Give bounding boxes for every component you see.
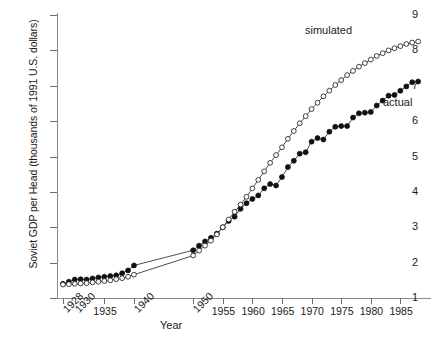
data-point-actual	[362, 110, 367, 115]
data-point-simulated	[327, 88, 332, 93]
data-point-actual	[410, 80, 415, 85]
x-tick	[223, 298, 224, 304]
data-point-simulated	[102, 279, 107, 284]
data-point-simulated	[238, 202, 243, 207]
y-tick	[50, 121, 57, 122]
data-point-simulated	[191, 253, 196, 258]
x-tick-label: 1935	[93, 306, 116, 317]
y-axis-title: Soviet GDP per Head (thousands of 1991 U…	[27, 0, 39, 294]
data-point-simulated	[114, 277, 119, 282]
data-point-actual	[315, 136, 320, 141]
data-point-actual	[345, 124, 350, 129]
data-point-actual	[416, 79, 421, 84]
data-point-simulated	[78, 281, 83, 286]
data-point-simulated	[203, 243, 208, 248]
data-point-simulated	[380, 51, 385, 56]
y-tick	[50, 157, 57, 158]
data-point-simulated	[404, 42, 409, 47]
data-point-simulated	[126, 274, 131, 279]
data-point-actual	[327, 129, 332, 134]
y-tick	[50, 263, 57, 264]
data-point-simulated	[315, 100, 320, 105]
data-point-actual	[351, 115, 356, 120]
x-tick	[252, 298, 253, 304]
data-point-simulated	[90, 280, 95, 285]
x-tick-label: 1965	[271, 306, 294, 317]
data-point-actual	[232, 214, 237, 219]
y-tick	[50, 15, 57, 16]
data-point-actual	[126, 268, 131, 273]
data-point-simulated	[84, 281, 89, 286]
data-point-simulated	[416, 39, 421, 44]
series-canvas	[57, 15, 430, 298]
data-point-actual	[398, 88, 403, 93]
x-tick-label: 1960	[241, 306, 264, 317]
data-point-simulated	[398, 44, 403, 49]
data-point-simulated	[268, 160, 273, 165]
data-point-actual	[291, 158, 296, 163]
data-point-simulated	[256, 177, 261, 182]
data-point-simulated	[286, 136, 291, 141]
data-point-actual	[339, 124, 344, 129]
data-point-simulated	[297, 121, 302, 126]
data-point-simulated	[374, 54, 379, 59]
data-point-simulated	[368, 57, 373, 62]
x-axis-line	[57, 298, 431, 299]
data-point-actual	[356, 111, 361, 116]
data-point-simulated	[214, 232, 219, 237]
data-point-actual	[368, 109, 373, 114]
x-tick	[400, 298, 401, 304]
data-point-actual	[274, 183, 279, 188]
plot-area: 123456789 192819301935194019501955196019…	[57, 15, 430, 298]
data-point-simulated	[280, 145, 285, 150]
data-point-actual	[191, 248, 196, 253]
data-point-simulated	[108, 278, 113, 283]
data-point-simulated	[351, 68, 356, 73]
x-tick	[282, 298, 283, 304]
data-point-simulated	[220, 225, 225, 230]
data-point-actual	[309, 139, 314, 144]
data-point-simulated	[120, 276, 125, 281]
chart-container: Soviet GDP per Head (thousands of 1991 U…	[0, 0, 442, 340]
x-tick-label: 1955	[212, 306, 235, 317]
y-tick	[50, 227, 57, 228]
data-point-simulated	[209, 238, 214, 243]
data-point-actual	[404, 84, 409, 89]
data-point-simulated	[392, 46, 397, 51]
y-tick	[50, 192, 57, 193]
x-tick-label: 1985	[389, 306, 412, 317]
y-tick	[50, 50, 57, 51]
data-point-actual	[131, 263, 136, 268]
data-point-simulated	[303, 114, 308, 119]
data-point-simulated	[309, 107, 314, 112]
data-point-actual	[262, 186, 267, 191]
data-point-simulated	[226, 217, 231, 222]
data-point-simulated	[197, 248, 202, 253]
series-label-actual: actual	[383, 96, 412, 108]
data-point-simulated	[345, 73, 350, 78]
y-tick	[50, 86, 57, 87]
x-tick-label: 1975	[330, 306, 353, 317]
data-point-simulated	[291, 129, 296, 134]
data-point-simulated	[96, 279, 101, 284]
series-label-simulated: simulated	[305, 24, 352, 36]
data-point-actual	[303, 150, 308, 155]
data-point-simulated	[274, 153, 279, 158]
data-point-simulated	[66, 282, 71, 287]
x-axis-title: Year	[160, 319, 182, 331]
data-point-actual	[268, 182, 273, 187]
data-point-actual	[197, 243, 202, 248]
data-point-simulated	[262, 169, 267, 174]
data-point-actual	[285, 165, 290, 170]
data-point-simulated	[386, 48, 391, 53]
series-line-simulated	[63, 42, 418, 285]
x-tick	[371, 298, 372, 304]
y-tick	[50, 298, 57, 299]
data-point-actual	[250, 196, 255, 201]
data-point-actual	[279, 175, 284, 180]
x-tick	[341, 298, 342, 304]
data-point-simulated	[362, 61, 367, 66]
data-point-actual	[256, 193, 261, 198]
data-point-actual	[321, 137, 326, 142]
data-point-actual	[120, 271, 125, 276]
